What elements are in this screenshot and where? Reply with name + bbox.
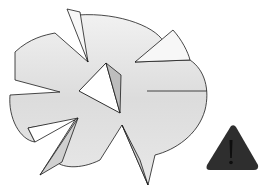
exclamation-dot bbox=[229, 161, 233, 165]
warning-triangle-icon bbox=[0, 0, 261, 193]
illustration-canvas bbox=[0, 0, 261, 193]
